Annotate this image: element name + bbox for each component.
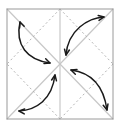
diagram-canvas — [0, 0, 120, 128]
origami-fold-diagram — [0, 0, 120, 128]
